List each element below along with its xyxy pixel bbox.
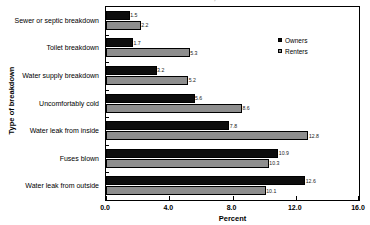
y-axis-tick (106, 117, 109, 118)
bar-owners: 5.6 (106, 94, 195, 103)
legend-swatch-icon (278, 49, 282, 53)
bar-renters: 12.8 (106, 131, 308, 140)
bar-value-label: 1.7 (133, 40, 140, 46)
legend-swatch-icon (278, 38, 282, 42)
bar-value-label: 8.6 (242, 105, 249, 111)
category-label: Water leak from inside (30, 127, 99, 134)
bar-renters: 10.3 (106, 159, 269, 168)
y-axis-tick (106, 172, 109, 173)
x-axis-tick (106, 196, 107, 200)
x-axis-tick (233, 196, 234, 200)
bar-renters: 8.6 (106, 104, 242, 113)
bar-group: 3.25.2 (106, 66, 359, 86)
x-axis-tick (358, 196, 359, 200)
legend-item: Owners (278, 36, 308, 44)
legend-label: Renters (285, 48, 308, 55)
x-axis-tick-label: 4.0 (163, 204, 173, 211)
bar-group: 1.52.2 (106, 11, 359, 31)
bar-value-label: 1.5 (130, 12, 137, 18)
bar-chart: in the Last 12 Months, 2001 Type of brea… (0, 0, 370, 225)
x-axis-tick-label: 8.0 (227, 204, 237, 211)
legend-item: Renters (278, 47, 308, 55)
category-axis-labels: Sewer or septic breakdownToilet breakdow… (0, 6, 102, 201)
bar-renters: 5.2 (106, 76, 188, 85)
bar-group: 12.610.1 (106, 176, 359, 196)
category-label: Water supply breakdown (22, 71, 99, 78)
category-label: Uncomfortably cold (39, 99, 99, 106)
category-label: Toilet breakdown (46, 44, 99, 51)
x-axis-tick-label: 16.0 (351, 204, 365, 211)
y-axis-tick (106, 62, 109, 63)
x-axis-tick (296, 196, 297, 200)
bar-group: 7.812.8 (106, 121, 359, 141)
bar-value-label: 10.1 (266, 188, 276, 194)
x-axis-tick-label: 12.0 (288, 204, 302, 211)
bar-value-label: 5.6 (195, 95, 202, 101)
bar-value-label: 10.3 (269, 160, 279, 166)
legend-label: Owners (285, 37, 307, 44)
bar-owners: 3.2 (106, 66, 157, 75)
bar-owners: 10.9 (106, 149, 278, 158)
x-axis-tick-label: 0.0 (100, 204, 110, 211)
y-axis-tick (106, 90, 109, 91)
bar-group: 10.910.3 (106, 149, 359, 169)
x-axis-title: Percent (105, 214, 360, 223)
x-axis-tick (169, 196, 170, 200)
bar-value-label: 3.2 (157, 67, 164, 73)
bar-owners: 12.6 (106, 176, 305, 185)
bar-value-label: 12.6 (306, 178, 316, 184)
category-label: Sewer or septic breakdown (15, 16, 99, 23)
bar-owners: 7.8 (106, 121, 229, 130)
bar-value-label: 7.8 (230, 123, 237, 129)
bar-renters: 2.2 (106, 21, 141, 30)
bar-renters: 5.3 (106, 48, 190, 57)
bar-value-label: 5.3 (190, 50, 197, 56)
bar-owners: 1.5 (106, 11, 130, 20)
bar-group: 1.75.3 (106, 38, 359, 58)
category-label: Water leak from outside (25, 182, 99, 189)
bar-group: 5.68.6 (106, 94, 359, 114)
category-label: Fuses blown (60, 154, 99, 161)
bar-value-label: 10.9 (279, 150, 289, 156)
y-axis-tick (106, 35, 109, 36)
chart-legend: OwnersRenters (278, 36, 308, 58)
chart-title: in the Last 12 Months, 2001 (0, 0, 370, 2)
bar-renters: 10.1 (106, 186, 266, 195)
plot-area: 1.52.21.75.33.25.25.68.67.812.810.910.31… (105, 6, 360, 201)
bar-value-label: 12.8 (309, 133, 319, 139)
bar-value-label: 5.2 (189, 77, 196, 83)
bar-value-label: 2.2 (141, 22, 148, 28)
bar-owners: 1.7 (106, 38, 133, 47)
y-axis-tick (106, 145, 109, 146)
